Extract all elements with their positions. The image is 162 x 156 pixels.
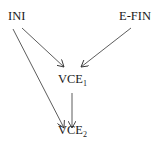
node-efin: E-FIN bbox=[119, 10, 151, 23]
edge-ini-to-vce1 bbox=[22, 28, 64, 67]
node-vce2: VCE2 bbox=[58, 124, 87, 139]
node-vce2-label: VCE bbox=[58, 123, 83, 137]
node-vce1: VCE1 bbox=[58, 73, 87, 88]
node-vce1-label: VCE bbox=[58, 72, 83, 86]
node-ini: INI bbox=[8, 10, 25, 23]
edge-efin-to-vce1 bbox=[81, 28, 131, 67]
node-vce1-subscript: 1 bbox=[83, 79, 87, 88]
node-ini-label: INI bbox=[8, 9, 25, 23]
node-efin-label: E-FIN bbox=[119, 9, 151, 23]
node-vce2-subscript: 2 bbox=[83, 130, 87, 139]
